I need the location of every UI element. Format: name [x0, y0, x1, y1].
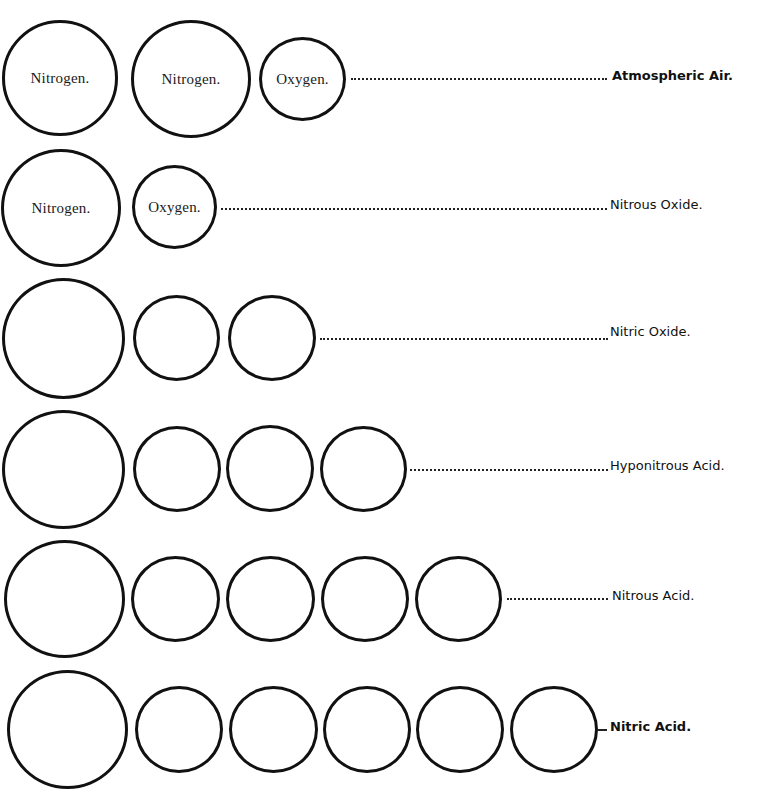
dotted-leader — [410, 469, 608, 471]
oxygen-circle — [131, 556, 220, 642]
oxygen-circle — [228, 295, 316, 381]
oxygen-circle: Oxygen. — [259, 37, 346, 121]
circle-label: Oxygen. — [148, 199, 201, 216]
oxygen-circle — [229, 686, 318, 773]
oxygen-circle — [226, 425, 314, 512]
nitrogen-circle: Nitrogen. — [131, 20, 251, 138]
dotted-leader — [351, 78, 607, 80]
circle-label: Oxygen. — [276, 71, 329, 88]
oxygen-circle — [510, 686, 598, 773]
solid-leader — [597, 729, 607, 731]
oxygen-circle — [133, 295, 220, 381]
circle-label: Nitrogen. — [31, 70, 90, 87]
nitrogen-circle — [2, 410, 125, 529]
circle-label: Nitrogen. — [162, 71, 221, 88]
compound-label: Nitrous Acid. — [612, 588, 694, 603]
dotted-leader — [320, 338, 608, 340]
nitrogen-circle — [4, 540, 125, 658]
compound-label: Hyponitrous Acid. — [610, 458, 725, 473]
compound-label: Nitric Oxide. — [610, 324, 691, 339]
nitrogen-circle: Nitrogen. — [1, 149, 121, 267]
oxygen-circle — [135, 686, 223, 773]
dotted-leader — [507, 598, 608, 600]
oxygen-circle: Oxygen. — [132, 165, 217, 249]
circle-label: Nitrogen. — [32, 200, 91, 217]
oxygen-circle — [320, 426, 407, 512]
dotted-leader — [221, 208, 607, 210]
oxygen-circle — [323, 686, 411, 773]
oxygen-circle — [133, 426, 221, 512]
compound-label: Nitrous Oxide. — [610, 197, 703, 212]
nitrogen-circle — [7, 670, 128, 789]
compound-label: Nitric Acid. — [610, 719, 691, 734]
nitrogen-circle: Nitrogen. — [2, 20, 118, 136]
oxygen-circle — [415, 556, 502, 642]
oxygen-circle — [321, 556, 409, 642]
oxygen-circle — [416, 686, 504, 773]
oxygen-circle — [226, 556, 315, 642]
compound-label: Atmospheric Air. — [612, 68, 733, 83]
nitrogen-circle — [2, 278, 125, 399]
